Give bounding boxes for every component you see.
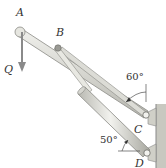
wall: [156, 104, 166, 168]
label-d: D: [134, 157, 144, 168]
label-q: Q: [4, 63, 13, 76]
pin-c: [143, 112, 149, 118]
angle-label-c: 60°: [126, 71, 144, 82]
angle-label-d: 50°: [100, 134, 118, 145]
label-c: C: [134, 123, 143, 136]
label-a: A: [15, 6, 24, 19]
angle-60-marker: [126, 84, 146, 102]
pin-b: [55, 45, 61, 51]
label-b: B: [55, 26, 64, 39]
mechanism-diagram: 60° 50° A B C D Q: [0, 0, 166, 168]
bracket-c: [148, 108, 156, 126]
pin-d: [144, 150, 150, 156]
